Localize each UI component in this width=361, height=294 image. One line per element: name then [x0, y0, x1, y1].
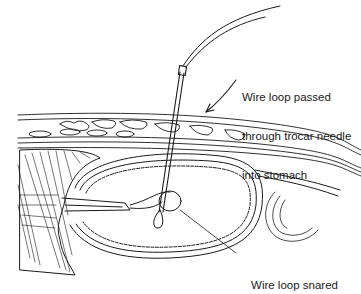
annotation-line: into stomach: [242, 169, 351, 182]
label-pointer-top: [206, 80, 236, 112]
illustration-canvas: Wire loop passed through trocar needle i…: [0, 0, 361, 294]
snare-loop: [130, 191, 181, 211]
annotation-wire-loop-snared: Wire loop snared by another loop passed …: [228, 253, 361, 294]
annotation-line: Wire loop snared: [228, 279, 361, 292]
annotation-wire-loop-trocar: Wire loop passed through trocar needle i…: [242, 65, 351, 208]
liver-hatching: [18, 149, 100, 275]
label-pointer-bottom: [180, 210, 236, 253]
annotation-line: through trocar needle: [242, 130, 351, 143]
endoscope: [62, 198, 130, 211]
annotation-line: Wire loop passed: [242, 91, 351, 104]
